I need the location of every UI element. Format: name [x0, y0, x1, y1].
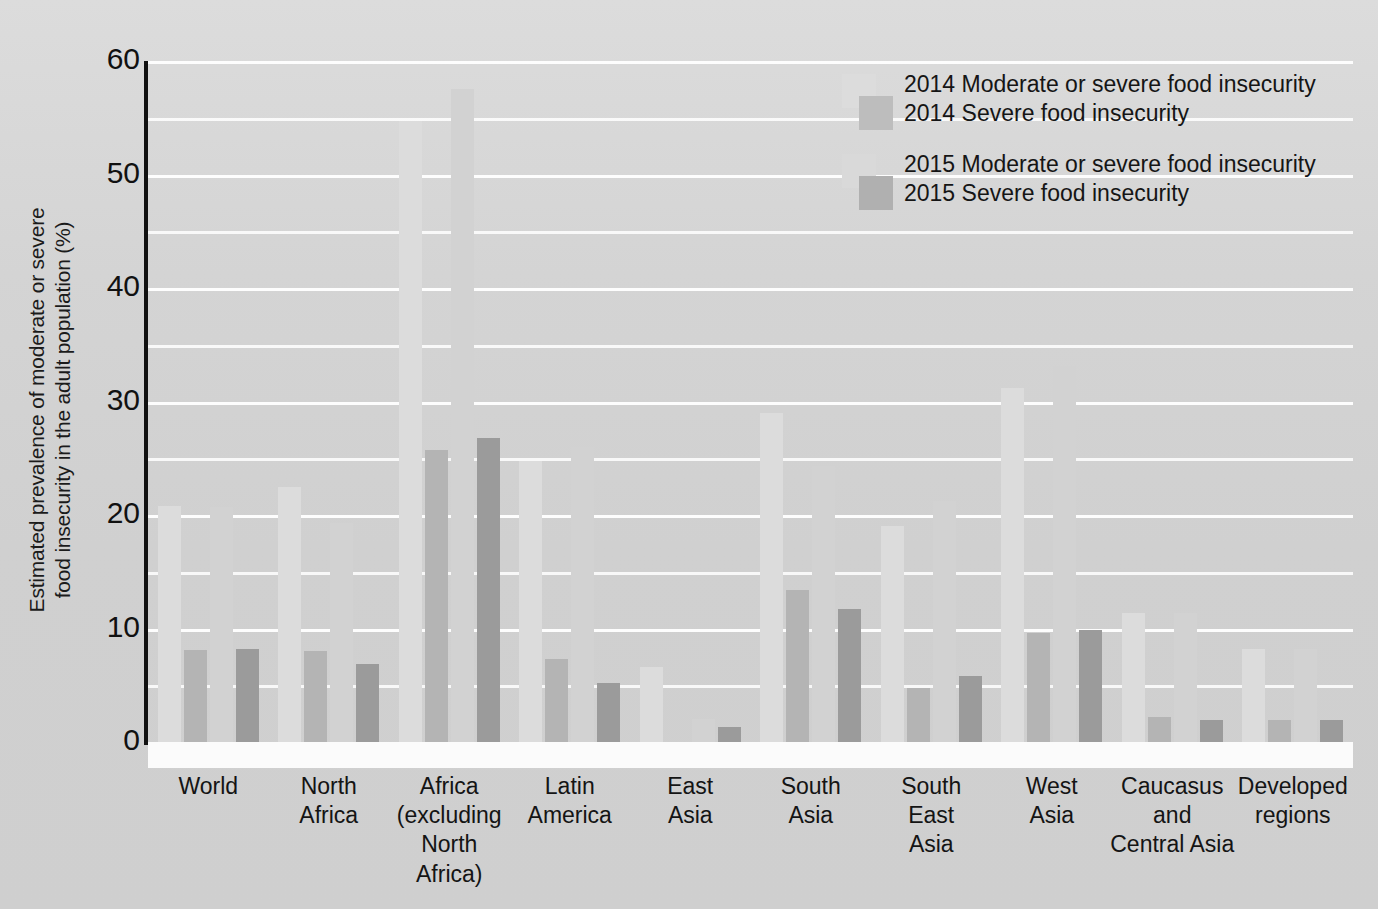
baseline-strip [148, 742, 1353, 768]
bar-2014-moderate [760, 413, 783, 742]
y-axis-tick-label: 50 [80, 156, 140, 190]
y-axis-tick-label: 30 [80, 383, 140, 417]
bar-2014-severe [304, 651, 327, 742]
bar-2015-severe [1200, 720, 1223, 742]
bar-2014-severe [1268, 720, 1291, 742]
legend-group[interactable]: 2015 Moderate or severe food insecurity2… [842, 154, 1362, 216]
bar-group [510, 61, 631, 742]
legend-text: 2015 Moderate or severe food insecurity2… [904, 150, 1316, 209]
bar-2014-severe [1148, 717, 1171, 742]
y-axis-tick-label: 0 [80, 723, 140, 757]
bar-2015-severe [597, 683, 620, 742]
bar-2014-moderate [1242, 649, 1265, 742]
bar-2015-moderate [451, 89, 474, 742]
bar-2015-severe [1320, 720, 1343, 742]
bar-2014-severe [786, 590, 809, 742]
bar-2015-severe [356, 664, 379, 742]
bar-2015-moderate [933, 501, 956, 742]
y-axis-tick-label: 20 [80, 496, 140, 530]
bar-2014-severe [184, 650, 207, 742]
bar-2014-moderate [399, 121, 422, 742]
bar-2015-severe [1079, 630, 1102, 742]
bar-2014-moderate [1122, 613, 1145, 742]
legend-text: 2014 Moderate or severe food insecurity2… [904, 70, 1316, 129]
bar-2014-moderate [881, 526, 904, 742]
bar-2014-moderate [158, 506, 181, 742]
legend-swatch-severe [859, 96, 893, 130]
bar-2015-severe [838, 609, 861, 742]
bar-2015-severe [959, 676, 982, 742]
bar-group [148, 61, 269, 742]
bar-group [269, 61, 390, 742]
legend-label-severe: 2015 Severe food insecurity [904, 179, 1316, 208]
bar-group [630, 61, 751, 742]
bar-2015-moderate [210, 507, 233, 742]
bar-2015-moderate [330, 523, 353, 742]
bar-2014-moderate [1001, 388, 1024, 742]
bar-2015-moderate [812, 466, 835, 742]
bar-2015-severe [718, 727, 741, 742]
y-axis-tick-label: 10 [80, 610, 140, 644]
bar-2015-severe [236, 649, 259, 742]
bar-2014-severe [1027, 633, 1050, 742]
bar-2014-moderate [519, 461, 542, 742]
x-axis-labels: WorldNorth AfricaAfrica (excluding North… [148, 772, 1353, 907]
bar-2015-moderate [571, 447, 594, 742]
x-axis-label: Developed regions [1221, 772, 1366, 830]
bar-2014-severe [907, 688, 930, 742]
legend-label-moderate: 2015 Moderate or severe food insecurity [904, 150, 1316, 179]
bar-group [389, 61, 510, 742]
bar-2015-moderate [692, 719, 715, 742]
legend-label-severe: 2014 Severe food insecurity [904, 99, 1316, 128]
y-axis-title: Estimated prevalence of moderate or seve… [24, 60, 84, 760]
chart-legend: 2014 Moderate or severe food insecurity2… [842, 74, 1362, 234]
bar-2014-moderate [640, 667, 663, 742]
legend-label-moderate: 2014 Moderate or severe food insecurity [904, 70, 1316, 99]
bar-2014-moderate [278, 487, 301, 742]
y-axis-tick-label: 40 [80, 269, 140, 303]
bar-2015-moderate [1294, 649, 1317, 742]
bar-2015-severe [477, 438, 500, 742]
bar-2014-severe [545, 659, 568, 742]
bar-2015-moderate [1174, 613, 1197, 742]
bar-2015-moderate [1053, 366, 1076, 742]
y-axis-tick-label: 60 [80, 42, 140, 76]
chart-page: Estimated prevalence of moderate or seve… [0, 0, 1378, 909]
legend-group[interactable]: 2014 Moderate or severe food insecurity2… [842, 74, 1362, 136]
legend-swatch-severe [859, 176, 893, 210]
bar-2014-severe [425, 450, 448, 742]
